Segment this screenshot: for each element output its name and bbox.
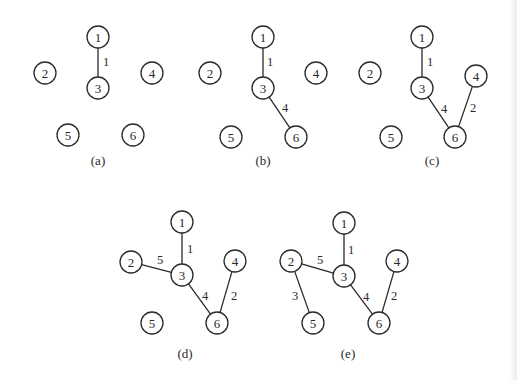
vertex-2: 2 [34,62,56,84]
vertex-label: 3 [260,81,267,96]
panel-caption: (b) [255,153,270,168]
vertex-label: 3 [419,81,426,96]
vertex-2: 2 [199,62,221,84]
vertex-1: 1 [171,211,193,233]
vertex-label: 1 [341,216,348,231]
page-edge-shadow [509,0,517,380]
vertex-label: 6 [293,130,300,145]
vertex-label: 5 [149,316,156,331]
vertex-label: 2 [367,66,374,81]
vertex-label: 1 [419,30,426,45]
vertex-label: 5 [388,130,395,145]
vertex-label: 2 [128,255,135,270]
vertex-1: 1 [333,212,355,234]
vertex-label: 5 [228,130,235,145]
vertex-label: 1 [260,30,267,45]
vertex-1: 1 [252,26,274,48]
vertex-6: 6 [206,312,228,334]
vertex-label: 6 [214,316,221,331]
vertex-5: 5 [141,312,163,334]
vertex-label: 1 [179,215,186,230]
panel-b: 14123456(b) [199,26,327,168]
vertex-4: 4 [386,250,408,272]
edge-weight-label: 2 [470,101,476,115]
vertex-label: 3 [341,269,348,284]
vertex-5: 5 [220,126,242,148]
edge-weight-label: 4 [202,289,209,303]
vertex-3: 3 [411,77,433,99]
edge-3-6 [351,285,373,314]
vertex-6: 6 [444,126,466,148]
panel-e: 15342123456(e) [280,212,408,361]
panel-a: 1123456(a) [34,26,163,168]
vertex-6: 6 [368,312,390,334]
vertex-label: 1 [95,30,102,45]
edge-weight-label: 5 [317,253,323,267]
edge-weight-label: 5 [157,253,163,267]
vertex-6: 6 [285,126,307,148]
edge-weight-label: 3 [292,289,298,303]
vertex-5: 5 [57,124,79,146]
edge-weight-label: 2 [391,289,397,303]
edge-weight-label: 4 [282,101,289,115]
edge-weight-label: 2 [231,289,237,303]
edge-weight-label: 1 [348,243,354,257]
vertex-4: 4 [224,250,246,272]
vertex-label: 2 [288,254,295,269]
panel-caption: (c) [425,153,439,168]
edge-weight-label: 1 [427,55,433,69]
vertex-2: 2 [280,250,302,272]
vertex-4: 4 [465,65,487,87]
vertex-1: 1 [87,26,109,48]
panel-c: 142123456(c) [359,26,487,168]
edge-weight-label: 4 [441,102,448,116]
vertex-3: 3 [87,77,109,99]
panel-caption: (d) [177,346,192,361]
vertex-5: 5 [380,126,402,148]
vertex-label: 5 [310,316,317,331]
vertex-label: 4 [149,66,156,81]
vertex-label: 3 [95,81,102,96]
vertex-label: 6 [130,128,137,143]
vertex-label: 6 [452,130,459,145]
vertex-label: 4 [473,69,480,84]
edge-weight-label: 4 [363,290,370,304]
edge-weight-label: 1 [187,242,193,256]
vertex-3: 3 [171,264,193,286]
vertex-label: 6 [376,316,383,331]
panel-caption: (e) [341,346,355,361]
vertex-1: 1 [411,26,433,48]
edge-weight-label: 1 [267,55,273,69]
vertex-label: 4 [313,66,320,81]
vertex-3: 3 [252,77,274,99]
vertex-6: 6 [122,124,144,146]
mst-steps-diagram: 1123456(a)14123456(b)142123456(c)1542123… [0,0,517,380]
vertex-label: 4 [232,254,239,269]
edge-weight-label: 1 [103,55,109,69]
panel-caption: (a) [91,153,105,168]
vertex-label: 4 [394,254,401,269]
vertex-label: 3 [179,268,186,283]
vertex-3: 3 [333,265,355,287]
vertex-label: 2 [207,66,214,81]
panel-d: 1542123456(d) [120,211,246,361]
vertex-2: 2 [120,251,142,273]
vertex-label: 2 [42,66,49,81]
vertex-4: 4 [141,62,163,84]
vertex-label: 5 [65,128,72,143]
vertex-2: 2 [359,62,381,84]
vertex-5: 5 [302,312,324,334]
vertex-4: 4 [305,62,327,84]
